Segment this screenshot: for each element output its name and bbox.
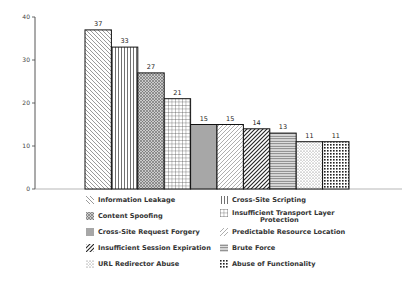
legend-label-line2: Protection <box>220 217 334 224</box>
bar <box>270 133 296 189</box>
bar <box>243 129 269 189</box>
bar-value-label: 11 <box>305 132 313 140</box>
bar <box>85 30 111 189</box>
bar-value-label: 21 <box>173 89 181 97</box>
legend-item: Insufficient Transport LayerProtection <box>220 209 334 224</box>
bar-value-label: 11 <box>332 132 340 140</box>
bars: 37332721151514131111 <box>85 20 349 189</box>
legend-swatch-icon <box>86 244 94 252</box>
legend-swatch-icon <box>220 244 228 252</box>
bar <box>323 142 349 189</box>
legend-item: Abuse of Functionality <box>220 260 315 268</box>
bar <box>191 125 217 190</box>
bar <box>164 99 190 189</box>
legend-item: Information Leakage <box>86 196 175 204</box>
bar-value-label: 15 <box>200 115 208 123</box>
legend-label: Cross-Site Request Forgery <box>98 228 200 236</box>
bar <box>217 125 243 190</box>
bar-value-label: 33 <box>120 37 128 45</box>
bar-value-label: 37 <box>94 20 102 28</box>
bar-value-label: 14 <box>252 119 260 127</box>
bar <box>138 73 164 189</box>
legend-label: Abuse of Functionality <box>232 260 315 268</box>
legend-item: Cross-Site Request Forgery <box>86 228 200 236</box>
legend-label: Information Leakage <box>98 196 175 204</box>
bar-value-label: 27 <box>147 63 155 71</box>
y-tick-label: 0 <box>26 185 30 192</box>
bar-chart: 010203040 37332721151514131111 <box>0 0 418 283</box>
legend-item: Predictable Resource Location <box>220 228 345 236</box>
legend-label: URL Redirector Abuse <box>98 260 179 268</box>
bar-value-label: 15 <box>226 115 234 123</box>
legend-swatch-icon <box>86 212 94 220</box>
y-ticks: 010203040 <box>22 13 35 192</box>
legend-swatch-icon <box>86 228 94 236</box>
y-tick-label: 30 <box>22 56 30 63</box>
legend-label: Predictable Resource Location <box>232 228 345 236</box>
legend-label: Content Spoofing <box>98 212 163 220</box>
legend-swatch-icon <box>220 228 228 236</box>
legend-swatch-icon <box>86 196 94 204</box>
legend-item: Insufficient Session Expiration <box>86 244 211 252</box>
legend-swatch-icon <box>220 196 228 204</box>
legend-label: Insufficient Session Expiration <box>98 244 211 252</box>
bar-value-label: 13 <box>279 123 287 131</box>
legend-swatch-icon <box>220 260 228 268</box>
bar <box>111 47 137 189</box>
legend-item: URL Redirector Abuse <box>86 260 179 268</box>
legend-swatch-icon <box>220 209 228 217</box>
legend-swatch-icon <box>86 260 94 268</box>
legend-item: Brute Force <box>220 244 275 252</box>
bar <box>296 142 322 189</box>
y-tick-label: 10 <box>22 142 30 149</box>
legend-label: Brute Force <box>232 244 275 252</box>
y-tick-label: 40 <box>22 13 30 20</box>
legend-item: Cross-Site Scripting <box>220 196 306 204</box>
legend-label: Cross-Site Scripting <box>232 196 306 204</box>
legend-item: Content Spoofing <box>86 212 163 220</box>
y-tick-label: 20 <box>22 99 30 106</box>
